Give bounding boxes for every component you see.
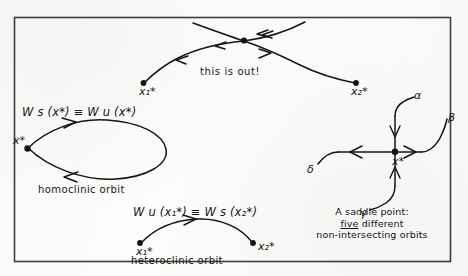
label-x2-star-hetero: x₂* (258, 241, 274, 253)
label-orbit-beta: β (448, 112, 455, 124)
caption-saddle-line3: non-intersecting orbits (292, 229, 452, 241)
label-x-star-homoclinic-text: x* (13, 134, 25, 147)
label-homoclinic-manifold: W s (x*) ≡ W u (x*) (22, 106, 136, 118)
point-x-star-homoclinic (24, 145, 30, 151)
arrowhead-top-to-x1 (176, 56, 188, 64)
arrowhead-top-right-inbound (257, 30, 273, 38)
caption-saddle-line2: five different (292, 218, 452, 230)
caption-saddle-point: A saddle point: five different non-inter… (292, 206, 452, 241)
top-crossing-node (241, 37, 247, 43)
label-orbit-alpha: α (414, 90, 421, 102)
orbit-beta-path (421, 119, 447, 152)
caption-saddle-five: five (340, 218, 358, 229)
orbit-delta-path (318, 152, 338, 164)
point-x2-star-hetero (250, 240, 256, 246)
caption-heteroclinic-orbit: heteroclinic orbit (131, 256, 223, 267)
caption-homoclinic-orbit: homoclinic orbit (38, 185, 125, 196)
label-x2-star-hetero-text: x₂* (258, 240, 274, 253)
arrowhead-top-left-inbound (215, 42, 226, 49)
label-homoclinic-manifold-text: W s (x*) ≡ W u (x*) (22, 105, 136, 119)
label-x2-star-top: x₂* (351, 86, 367, 98)
label-heteroclinic-manifold-text: W u (x₁*) ≡ W s (x₂*) (133, 205, 257, 219)
caption-saddle-line1: A saddle point: (292, 206, 452, 218)
label-x1-star-top-text: x₁* (139, 85, 155, 98)
orbit-alpha-path (395, 97, 414, 116)
label-orbit-delta: δ (307, 164, 314, 176)
heteroclinic-path (141, 219, 252, 243)
homoclinic-loop-path (28, 120, 166, 179)
caption-saddle-different: different (359, 218, 404, 229)
annotation-this-is-out: this is out! (200, 67, 260, 78)
label-x1-star-top: x₁* (139, 86, 155, 98)
label-x-star-homoclinic: x* (13, 135, 25, 147)
label-x-star-saddle-text: x* (392, 155, 404, 168)
figure-page: this is out! x₁* x₂* W s (x*) ≡ W u (x*)… (0, 0, 468, 276)
label-x2-star-top-text: x₂* (351, 85, 367, 98)
label-x-star-saddle: x* (392, 156, 404, 168)
label-heteroclinic-manifold: W u (x₁*) ≡ W s (x₂*) (133, 206, 257, 218)
